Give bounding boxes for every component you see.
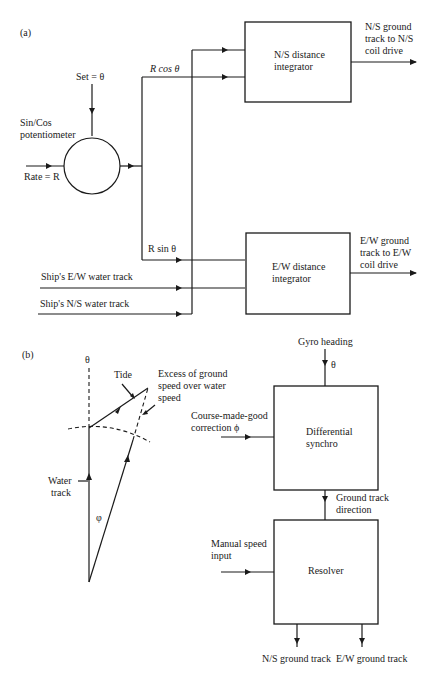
- ns-ground-track-arrow-icon: [294, 638, 300, 644]
- ns-integrator-label-1: N/S distance: [274, 49, 325, 60]
- manual-speed-label-1: Manual speed: [211, 538, 267, 549]
- ew-ground-track-arrow-icon: [359, 638, 365, 644]
- panel-a-label: (a): [20, 27, 31, 39]
- water-track-arrow-icon: [86, 473, 92, 480]
- resolver-label: Resolver: [308, 565, 344, 576]
- set-theta-label: Set = θ: [76, 71, 104, 82]
- ground-track-arrow-icon: [124, 455, 130, 462]
- course-correction-label-1: Course-made-good: [191, 410, 268, 421]
- gyro-arrow-icon: [322, 360, 328, 366]
- ew-output-arrow-icon: [410, 270, 417, 276]
- ns-ground-track-label: N/S ground track: [262, 653, 331, 664]
- set-arrow-icon: [89, 108, 95, 114]
- course-correction-label-2: correction ϕ: [191, 422, 239, 433]
- rate-label: Rate = R: [24, 171, 60, 182]
- ew-integrator-label-1: E/W distance: [272, 261, 326, 272]
- course-correction-arrow-icon: [245, 434, 251, 440]
- ew-ground-track-label: E/W ground track: [336, 653, 407, 664]
- rate-arrow-icon: [46, 163, 52, 169]
- ns-feed-arrow-icon: [222, 47, 228, 53]
- rsin-arrow-icon: [176, 257, 182, 263]
- ns-output-label-3: coil drive: [365, 45, 404, 56]
- rsin-label: R sin θ: [148, 243, 176, 254]
- diff-synchro-label-1: Differential: [306, 426, 353, 437]
- sin-cos-potentiometer: [64, 138, 120, 194]
- diff-synchro-label-2: synchro: [306, 438, 338, 449]
- ns-water-track-arrow-icon: [176, 311, 182, 317]
- ew-output-label-3: coil drive: [360, 259, 399, 270]
- ground-track-label-2: direction: [336, 504, 372, 515]
- potentiometer-label-2: potentiometer: [20, 129, 76, 140]
- potentiometer-label-1: Sin/Cos: [20, 117, 52, 128]
- navigation-diagram: (a) Set = θ Sin/Cos potentiometer Rate =…: [0, 0, 432, 677]
- gyro-theta-label: θ: [331, 359, 336, 370]
- ew-output-label-2: track to E/W: [360, 247, 412, 258]
- manual-speed-label-2: input: [211, 550, 232, 561]
- ground-track-direction-arrow-icon: [322, 496, 328, 502]
- ew-output-label-1: E/W ground: [360, 235, 409, 246]
- ns-water-track-label: Ship's N/S water track: [40, 298, 129, 309]
- theta-vector-label: θ: [85, 354, 90, 365]
- excess-label-2: speed over water: [158, 380, 226, 391]
- gyro-heading-label: Gyro heading: [298, 336, 353, 347]
- phi-label: φ: [96, 512, 102, 523]
- ns-output-label-2: track to N/S: [365, 33, 413, 44]
- rcos-arrow-icon: [222, 74, 228, 80]
- speed-arc-dashed: [68, 426, 150, 442]
- pot-output-arrow-icon: [128, 163, 134, 169]
- excess-label-1: Excess of ground: [158, 368, 227, 379]
- excess-label-3: speed: [158, 392, 181, 403]
- manual-speed-arrow-icon: [245, 569, 251, 575]
- ew-water-track-label: Ship's E/W water track: [41, 271, 133, 282]
- panel-b-label: (b): [22, 349, 34, 361]
- ns-output-label-1: N/S ground: [365, 21, 411, 32]
- ew-integrator-label-2: integrator: [272, 273, 312, 284]
- rcos-label: R cos θ: [149, 63, 179, 74]
- ground-track-label-1: Ground track: [336, 492, 389, 503]
- water-track-label-2: track: [51, 487, 71, 498]
- water-track-label-1: Water: [48, 475, 72, 486]
- ns-integrator-label-2: integrator: [274, 61, 314, 72]
- tide-label: Tide: [114, 369, 133, 380]
- tide-vector: [89, 388, 148, 428]
- ew-water-track-arrow-icon: [176, 285, 182, 291]
- ns-output-arrow-icon: [410, 59, 417, 65]
